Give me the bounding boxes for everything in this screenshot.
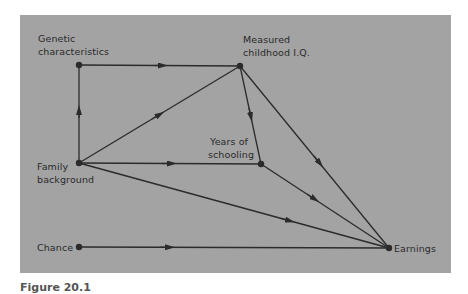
- label-line: Family: [37, 160, 94, 173]
- label-family-background: Family background: [37, 160, 94, 186]
- label-chance: Chance: [37, 241, 73, 254]
- edge-family-earnings: [79, 163, 389, 248]
- node-chance-dot: [76, 244, 82, 250]
- label-earnings: Earnings: [394, 242, 436, 255]
- label-line: schooling: [208, 148, 254, 161]
- node-earnings-dot: [386, 245, 392, 251]
- label-line: background: [37, 173, 94, 186]
- label-line: childhood I.Q.: [243, 46, 310, 59]
- label-line: Genetic: [38, 32, 109, 45]
- label-line: Chance: [37, 241, 73, 254]
- label-line: Earnings: [394, 242, 436, 255]
- node-schooling-dot: [258, 161, 264, 167]
- edge-schooling-earnings: [261, 164, 389, 248]
- label-years-of-schooling: Years of schooling: [208, 135, 254, 161]
- edge-chance-earnings: [79, 247, 389, 248]
- label-line: Measured: [243, 33, 310, 46]
- label-line: characteristics: [38, 45, 109, 58]
- node-genetic-dot: [76, 62, 82, 68]
- label-line: Years of: [208, 135, 254, 148]
- node-iq-dot: [237, 63, 243, 69]
- label-measured-childhood-iq: Measured childhood I.Q.: [243, 33, 310, 59]
- figure-caption: Figure 20.1: [20, 281, 91, 294]
- label-genetic-characteristics: Genetic characteristics: [38, 32, 109, 58]
